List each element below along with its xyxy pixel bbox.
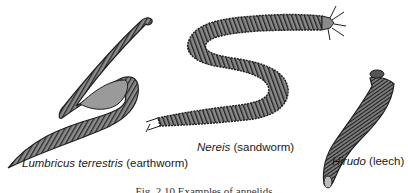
sandworm-genus: Nereis — [197, 141, 230, 153]
earthworm-common-name: (earthworm) — [126, 157, 188, 169]
earthworm-drawing — [8, 18, 152, 168]
leech-genus: Hirudo — [332, 155, 366, 167]
sandworm-label: Nereis (sandworm) — [197, 140, 294, 154]
annelid-figure: Lumbricus terrestris (earthworm) Nereis … — [0, 0, 408, 193]
earthworm-genus: Lumbricus terrestris — [22, 157, 123, 169]
sandworm-drawing — [146, 6, 346, 132]
leech-common-name: (leech) — [369, 155, 404, 167]
figure-caption: Fig. 2.10 Examples of annelids — [0, 184, 408, 193]
leech-drawing — [324, 70, 395, 188]
leech-label: Hirudo (leech) — [332, 154, 404, 168]
sandworm-common-name: (sandworm) — [233, 141, 294, 153]
earthworm-label: Lumbricus terrestris (earthworm) — [22, 156, 188, 170]
